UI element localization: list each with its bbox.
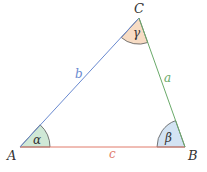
vertex-label-b: B xyxy=(187,148,198,163)
angle-label-alpha: α xyxy=(33,133,41,147)
side-label-a: a xyxy=(164,71,171,85)
vertex-label-c: C xyxy=(134,1,144,16)
side-a xyxy=(139,18,185,147)
side-label-b: b xyxy=(75,67,83,81)
angle-label-gamma: γ xyxy=(133,26,141,40)
vertex-label-a: A xyxy=(6,148,16,163)
side-b xyxy=(20,18,139,147)
triangle-diagram: A B C a b c α β γ xyxy=(0,0,207,172)
side-label-c: c xyxy=(109,147,116,161)
angle-label-beta: β xyxy=(164,131,172,145)
